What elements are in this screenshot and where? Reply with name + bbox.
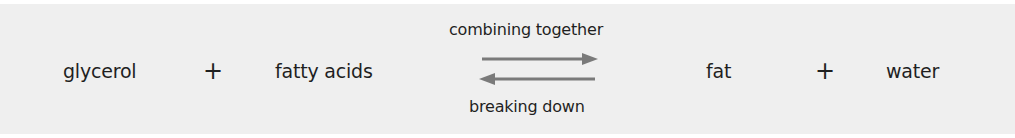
plus-sign-2: + — [815, 59, 835, 83]
reactant-fatty-acids: fatty acids — [275, 60, 373, 82]
reverse-label: breaking down — [469, 97, 585, 117]
product-fat: fat — [706, 60, 731, 82]
equation-panel: glycerol + fatty acids combining togethe… — [0, 4, 1015, 134]
left-arrow-icon — [477, 72, 597, 86]
forward-label: combining together — [449, 20, 603, 40]
product-water: water — [886, 60, 939, 82]
plus-sign-1: + — [203, 59, 223, 83]
reactant-glycerol: glycerol — [63, 60, 136, 82]
right-arrow-icon — [480, 52, 600, 66]
